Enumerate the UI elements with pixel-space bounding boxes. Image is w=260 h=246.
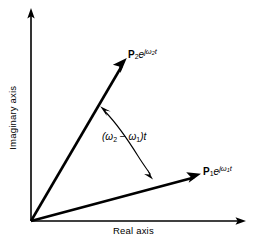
phasor-1-symbol: P — [203, 166, 210, 177]
angle-annotation-label: (ω2 − ω1)t — [102, 132, 146, 143]
phasor-2-exponent-t: t — [155, 47, 157, 56]
phasor-1-shaft — [31, 178, 194, 222]
angle-minus-sign: − — [117, 131, 128, 142]
angle-arc — [100, 106, 153, 179]
phasor-1-label: P1ejω1t — [203, 165, 232, 177]
phasor-2-exponent: jω2t — [144, 47, 157, 56]
phasor-1-arrowhead — [186, 172, 201, 183]
imaginary-axis-label: Imaginary axis — [8, 73, 18, 163]
angle-arc-path — [106, 112, 151, 175]
angle-omega2: ω — [105, 131, 113, 142]
phasor-1-exponent-t: t — [230, 164, 232, 173]
real-axis-label: Real axis — [113, 226, 154, 236]
diagram-canvas — [0, 0, 260, 246]
phasor-2-label: P2ejω2t — [128, 48, 157, 60]
phasor-2-symbol: P — [128, 49, 135, 60]
phasor-1-exponent: jω1t — [219, 164, 232, 173]
imaginary-axis — [27, 8, 34, 221]
phasor-diagram: Imaginary axis Real axis P2ejω2t P1ejω1t… — [0, 0, 260, 246]
real-axis — [31, 217, 246, 224]
angle-t: t — [144, 131, 147, 142]
phasor-2-shaft — [31, 67, 122, 222]
angle-arc-arrowhead-upper — [100, 106, 111, 116]
